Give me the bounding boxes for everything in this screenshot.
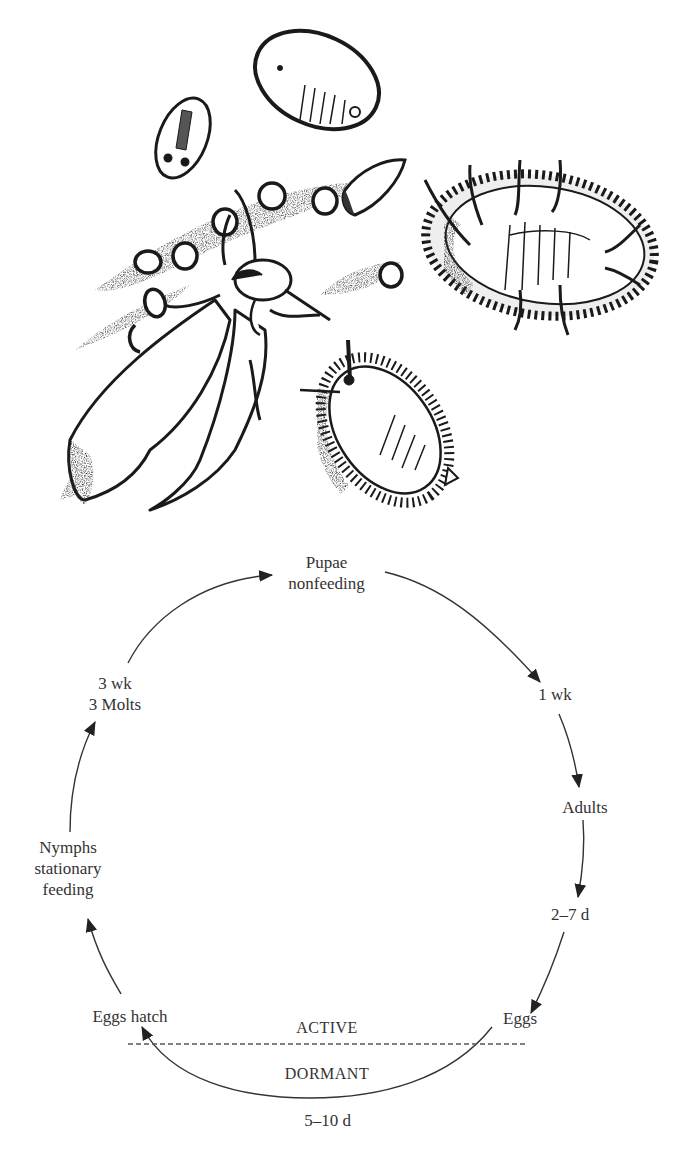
label-active-zone: ACTIVE: [272, 1017, 382, 1038]
arrow-adults-to-2-7d: [578, 820, 584, 897]
label-nymphs-line3: feeding: [18, 879, 118, 900]
label-active-text: ACTIVE: [272, 1017, 382, 1038]
arrow-nymphs-to-3wk: [70, 722, 95, 832]
arrow-2-7d-to-eggs: [531, 932, 564, 1013]
label-3-molts: 3 Molts: [70, 694, 160, 715]
label-5-10d: 5–10 d: [275, 1110, 380, 1131]
label-dormant-duration: 5–10 d: [275, 1110, 380, 1131]
arrow-molts-to-pupae: [128, 575, 272, 663]
label-adults-text: Adults: [545, 797, 625, 818]
label-eggs-hatch: Eggs hatch: [80, 1006, 180, 1027]
label-2-7d: 2–7 d: [535, 904, 605, 925]
label-adults: Adults: [545, 797, 625, 818]
label-dormant-zone: DORMANT: [262, 1063, 392, 1084]
label-nymphs-line2: stationary: [18, 858, 118, 879]
label-pupae-line2: nonfeeding: [269, 573, 384, 594]
label-pupae: Pupae nonfeeding: [269, 552, 384, 594]
arrow-1wk-to-adults: [559, 714, 579, 787]
label-nymphs: Nymphs stationary feeding: [18, 837, 118, 900]
label-1wk: 1 wk: [520, 684, 590, 705]
label-3wk-molts: 3 wk 3 Molts: [70, 673, 160, 715]
label-dormant-text: DORMANT: [262, 1063, 392, 1084]
label-eggs-hatch-text: Eggs hatch: [80, 1006, 180, 1027]
arrow-hatch-to-nymphs: [88, 919, 121, 994]
label-nymphs-line1: Nymphs: [18, 837, 118, 858]
label-3wk: 3 wk: [70, 673, 160, 694]
label-eggs-text: Eggs: [490, 1008, 550, 1029]
label-1wk-text: 1 wk: [520, 684, 590, 705]
label-pupae-line1: Pupae: [269, 552, 384, 573]
arrow-pupae-to-1wk: [385, 572, 540, 682]
label-2-7d-text: 2–7 d: [535, 904, 605, 925]
label-eggs: Eggs: [490, 1008, 550, 1029]
